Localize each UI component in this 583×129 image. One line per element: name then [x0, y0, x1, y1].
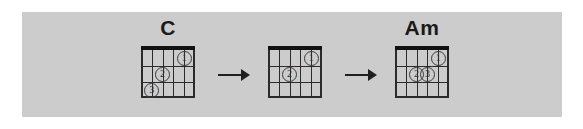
string-line-6 [193, 50, 195, 98]
string-line-1 [141, 50, 143, 98]
chord-diagram-2: 12 [257, 12, 333, 117]
string-line-4 [173, 50, 174, 98]
arrow-right-icon [345, 68, 379, 82]
fret-line-3 [395, 96, 449, 98]
fret-line-2 [268, 82, 322, 83]
fret-line-1 [141, 66, 195, 67]
finger-marker-1: 1 [304, 51, 319, 66]
finger-marker-1: 1 [431, 51, 446, 66]
fret-line-2 [395, 82, 449, 83]
fret-line-1 [268, 66, 322, 67]
figure-panel: C12312Am123 [22, 12, 562, 117]
chord-name-label: C [130, 16, 206, 40]
chord-name-label: Am [384, 16, 460, 40]
string-line-6 [447, 50, 449, 98]
chord-change-figure: C12312Am123 [0, 0, 583, 129]
fret-line-1 [395, 66, 449, 67]
string-line-1 [395, 50, 397, 98]
arrow-head [241, 69, 250, 81]
arrow-head [368, 69, 377, 81]
fretboard-grid: 12 [268, 46, 322, 98]
chord-sequence: C12312Am123 [22, 12, 562, 117]
string-line-4 [300, 50, 301, 98]
string-line-2 [406, 50, 407, 98]
finger-marker-3: 3 [144, 83, 159, 98]
finger-marker-2: 2 [155, 67, 170, 82]
string-line-6 [320, 50, 322, 98]
fret-line-3 [268, 96, 322, 98]
string-line-2 [279, 50, 280, 98]
chord-diagram-3: Am123 [384, 12, 460, 117]
fretboard-grid: 123 [141, 46, 195, 98]
finger-marker-3: 3 [420, 67, 435, 82]
string-line-1 [268, 50, 270, 98]
finger-marker-2: 2 [282, 67, 297, 82]
chord-diagram-1: C123 [130, 12, 206, 117]
finger-marker-1: 1 [177, 51, 192, 66]
arrow-right-icon [218, 68, 252, 82]
fretboard-grid: 123 [395, 46, 449, 98]
